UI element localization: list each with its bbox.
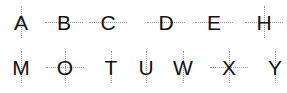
letter-m: M: [12, 57, 30, 78]
letter-e: E: [207, 12, 221, 33]
letter-a: A: [14, 12, 28, 33]
letter-d: D: [158, 12, 173, 33]
letter-o: O: [57, 57, 73, 78]
letter-h: H: [256, 12, 271, 33]
letter-y: Y: [268, 57, 282, 78]
letter-c: C: [100, 12, 115, 33]
letter-t: T: [105, 57, 118, 78]
letter-x: X: [222, 57, 236, 78]
letter-b: B: [57, 12, 71, 33]
letter-u: U: [138, 57, 153, 78]
letter-w: W: [173, 57, 193, 78]
